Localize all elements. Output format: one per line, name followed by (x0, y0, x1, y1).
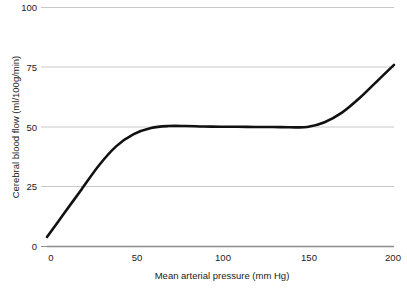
y-tick-marks (41, 8, 47, 247)
x-tick-label-150: 150 (301, 252, 317, 263)
y-tick-label-100: 100 (21, 2, 37, 13)
x-tick-label-50: 50 (132, 252, 143, 263)
chart-canvas: 100 75 50 25 0 0 50 100 150 200 Mean art… (0, 0, 407, 288)
y-axis-title: Cerebral blood flow (ml/100g/min) (10, 56, 21, 199)
y-tick-label-25: 25 (26, 181, 37, 192)
gridlines (47, 8, 394, 187)
y-tick-label-0: 0 (32, 241, 37, 252)
x-tick-label-200: 200 (385, 252, 401, 263)
chart-figure: 100 75 50 25 0 0 50 100 150 200 Mean art… (0, 0, 407, 288)
x-tick-label-0: 0 (48, 252, 53, 263)
y-tick-label-75: 75 (26, 62, 37, 73)
data-series-line (47, 65, 394, 237)
x-axis-title: Mean arterial pressure (mm Hg) (155, 270, 290, 281)
y-tick-label-50: 50 (26, 122, 37, 133)
x-tick-label-100: 100 (215, 252, 231, 263)
